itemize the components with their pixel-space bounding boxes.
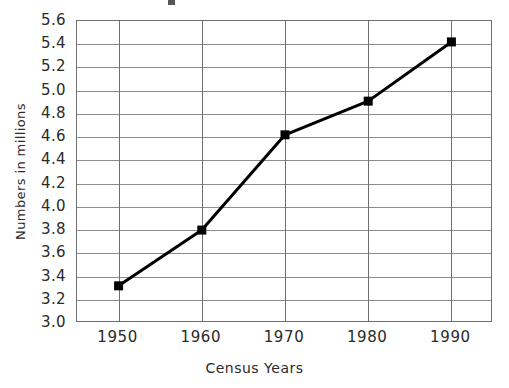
gridline-vertical (119, 21, 120, 321)
y-axis-tick-label: 5.2 (41, 57, 66, 75)
y-axis-title: Numbers in millions (13, 82, 28, 262)
y-axis-tick-label: 4.4 (41, 150, 66, 168)
gridline-vertical (285, 21, 286, 321)
y-axis-tick-label: 4.8 (41, 104, 66, 122)
gridline-horizontal (77, 207, 491, 208)
y-axis-tick-label: 3.4 (41, 267, 66, 285)
x-axis-tick-label: 1950 (97, 328, 138, 346)
x-axis-tick-label: 1980 (347, 328, 388, 346)
y-axis-tick-label: 5.6 (41, 11, 66, 29)
y-axis-tick-label: 4.2 (41, 174, 66, 192)
y-axis-tick-label: 3.2 (41, 290, 66, 308)
gridline-horizontal (77, 44, 491, 45)
y-axis-tick-label: 5.0 (41, 81, 66, 99)
gridline-horizontal (77, 230, 491, 231)
gridline-horizontal (77, 253, 491, 254)
x-axis-tick-label: 1990 (430, 328, 471, 346)
x-axis-title: Census Years (0, 360, 509, 376)
x-axis-tick-labels: 19501960197019801990 (76, 328, 492, 352)
gridline-horizontal (77, 160, 491, 161)
gridline-horizontal (77, 300, 491, 301)
y-axis-tick-label: 4.6 (41, 127, 66, 145)
plot-area (76, 20, 492, 322)
y-axis-tick-label: 3.0 (41, 313, 66, 331)
x-axis-tick-label: 1960 (181, 328, 222, 346)
y-axis-tick-label: 4.0 (41, 197, 66, 215)
gridline-horizontal (77, 137, 491, 138)
gridline-horizontal (77, 184, 491, 185)
gridline-vertical (451, 21, 452, 321)
x-axis-tick-label: 1970 (264, 328, 305, 346)
y-axis-tick-label: 5.4 (41, 34, 66, 52)
gridline-vertical (368, 21, 369, 321)
gridline-vertical (202, 21, 203, 321)
gridline-horizontal (77, 114, 491, 115)
cropped-title-fragment (168, 0, 175, 5)
gridline-horizontal (77, 277, 491, 278)
gridline-horizontal (77, 91, 491, 92)
y-axis-tick-label: 3.6 (41, 243, 66, 261)
chart-figure: 5.65.45.25.04.84.64.44.24.03.83.63.43.23… (0, 0, 509, 388)
gridline-horizontal (77, 67, 491, 68)
y-axis-tick-labels: 5.65.45.25.04.84.64.44.24.03.83.63.43.23… (0, 20, 70, 322)
y-axis-tick-label: 3.8 (41, 220, 66, 238)
